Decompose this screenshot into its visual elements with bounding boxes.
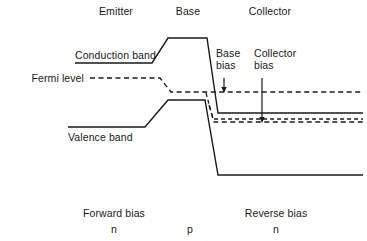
region-label-base: Base <box>176 5 200 17</box>
collector-doping-type-label: n <box>273 223 279 235</box>
fermi-level-line <box>90 78 363 92</box>
reverse-bias-label: Reverse bias <box>245 207 307 219</box>
conduction-band-label: Conduction band <box>75 49 156 61</box>
forward-bias-label: Forward bias <box>83 207 145 219</box>
region-label-emitter: Emitter <box>99 5 133 17</box>
emitter-doping-type-label: n <box>111 223 117 235</box>
base-doping-type-label: p <box>187 223 193 235</box>
region-label-collector: Collector <box>249 5 291 17</box>
band-diagram-canvas <box>0 0 367 241</box>
base-bias-label-line1: Base <box>216 47 240 60</box>
base-bias-label-line2: bias <box>216 59 236 72</box>
collector-band-edge-dashed <box>206 93 363 119</box>
collector-bias-label-line2: bias <box>254 59 274 72</box>
collector-bias-label-line1: Collector <box>254 47 296 60</box>
fermi-level-label: Fermi level <box>32 72 84 84</box>
band-diagram-figure: Emitter Base Collector Conduction band F… <box>0 0 367 241</box>
valence-band-label: Valence band <box>68 131 133 143</box>
